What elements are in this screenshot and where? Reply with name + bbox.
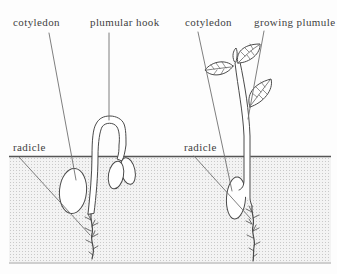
right-radicle-root bbox=[252, 206, 255, 261]
growing-plumule-label: growing plumule bbox=[254, 16, 335, 28]
plumule-bud-shape bbox=[233, 48, 237, 62]
diagram-drawing bbox=[0, 0, 337, 274]
right-cotyledon-label: cotyledon bbox=[185, 16, 232, 28]
left-cotyledon-leader bbox=[49, 33, 76, 180]
left-radicle-label: radicle bbox=[13, 141, 46, 153]
plumular-hook-label: plumular hook bbox=[90, 16, 160, 28]
germination-diagram: cotyledon plumular hook cotyledon growin… bbox=[0, 0, 337, 274]
right-radicle-label: radicle bbox=[184, 141, 217, 153]
leaf-left bbox=[205, 62, 233, 75]
left-cotyledon-shape bbox=[58, 167, 89, 214]
right-cotyledon-leader bbox=[198, 32, 232, 191]
leaf-lower-right bbox=[249, 79, 272, 107]
leaf-top-right bbox=[237, 44, 260, 63]
left-cotyledon-label: cotyledon bbox=[13, 16, 60, 28]
left-seedling bbox=[58, 116, 138, 259]
